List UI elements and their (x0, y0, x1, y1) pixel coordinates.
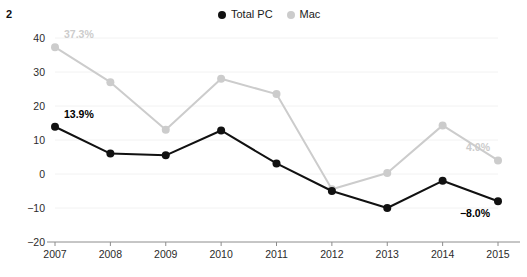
data-point-marker (106, 78, 114, 86)
y-axis-tick-label: 40 (33, 32, 45, 44)
y-axis-tick-label: 0 (39, 168, 45, 180)
x-axis-tick-label: 2015 (486, 248, 510, 260)
data-point-marker (217, 126, 225, 134)
x-axis-tick-label: 2014 (431, 248, 455, 260)
y-axis-tick-label: 20 (33, 100, 45, 112)
data-point-marker (383, 204, 391, 212)
line-chart-plot: 403020100−10−20 200720082009201020112012… (0, 0, 527, 277)
x-axis-tick-label: 2010 (209, 248, 233, 260)
figure-container: 2 Total PC Mac 403020100−10−20 200720082… (0, 0, 527, 277)
y-axis-tick-label: 10 (33, 134, 45, 146)
y-axis-tick-label: −10 (27, 202, 45, 214)
x-axis (47, 242, 520, 246)
x-axis-tick-label: 2008 (99, 248, 123, 260)
data-point-marker (494, 156, 502, 164)
data-point-label: 13.9% (64, 108, 94, 120)
series-line-mac (55, 47, 498, 189)
data-point-marker (439, 121, 447, 129)
y-axis-tick-label: 30 (33, 66, 45, 78)
data-point-marker (494, 197, 502, 205)
data-point-label: 37.3% (64, 28, 94, 40)
x-axis-tick-label: 2009 (154, 248, 178, 260)
data-point-marker (217, 75, 225, 83)
data-point-marker (162, 126, 170, 134)
data-point-marker (106, 150, 114, 158)
data-point-marker (439, 177, 447, 185)
x-axis-tick-labels: 200720082009201020112012201320142015 (43, 248, 510, 260)
data-series (51, 43, 502, 212)
y-axis-tick-label: −20 (27, 236, 45, 248)
x-axis-tick-label: 2012 (320, 248, 344, 260)
x-axis-tick-label: 2011 (265, 248, 288, 260)
data-point-marker (273, 90, 281, 98)
y-axis-tick-labels: 403020100−10−20 (27, 32, 45, 248)
data-point-label: −8.0% (460, 207, 491, 219)
data-point-labels: 37.3%13.9%4.0%−8.0% (64, 28, 491, 219)
x-axis-tick-label: 2007 (43, 248, 67, 260)
data-point-marker (162, 151, 170, 159)
data-point-label: 4.0% (466, 141, 491, 153)
gridlines (55, 38, 498, 208)
x-axis-tick-label: 2013 (376, 248, 400, 260)
data-point-marker (51, 123, 59, 131)
data-point-marker (51, 43, 59, 51)
data-point-marker (383, 169, 391, 177)
data-point-marker (328, 187, 336, 195)
data-point-marker (273, 159, 281, 167)
